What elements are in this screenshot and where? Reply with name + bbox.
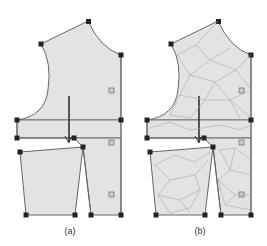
caption-b: (b): [185, 226, 215, 236]
panel-a: [15, 19, 124, 218]
pattern-diagram: [0, 0, 267, 246]
caption-a: (a): [55, 226, 85, 236]
panel-b: [145, 19, 254, 218]
